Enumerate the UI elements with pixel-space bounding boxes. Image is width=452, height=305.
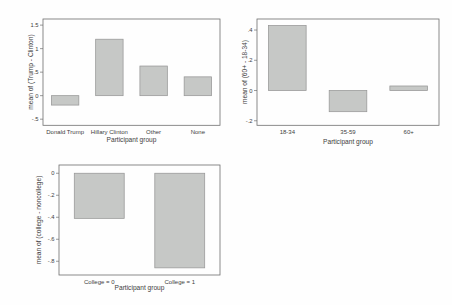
y-tick-label: -.6 xyxy=(48,236,55,242)
y-axis-title: mean of (60+ - 18-34) xyxy=(241,40,249,104)
y-tick-label: 0 xyxy=(51,170,54,176)
bar xyxy=(140,66,167,96)
bar xyxy=(390,86,428,91)
y-tick-label: 1.5 xyxy=(30,22,38,28)
x-category-label: None xyxy=(191,129,206,135)
y-tick-label: -.2 xyxy=(246,118,253,124)
y-tick-label: 0 xyxy=(35,93,38,99)
x-axis-title: Participant group xyxy=(107,136,157,144)
figure-canvas: mean of (Trump - Clinton) Participant gr… xyxy=(0,0,452,305)
x-category-label: Other xyxy=(146,129,161,135)
y-tick-label: -.4 xyxy=(48,214,56,220)
x-category-label: 18-34 xyxy=(280,129,296,135)
y-tick-label: 0 xyxy=(249,88,252,94)
y-axis-title: mean of (college - noncollege) xyxy=(35,176,43,265)
y-tick-label: .4 xyxy=(248,27,254,33)
bar xyxy=(74,173,124,218)
x-category-label: College = 0 xyxy=(84,279,115,285)
age-group-bar-chart: mean of (60+ - 18-34) Participant group … xyxy=(232,0,452,152)
bar xyxy=(329,91,367,112)
bar xyxy=(96,39,123,95)
college-bar-chart: mean of (college - noncollege) Participa… xyxy=(0,152,232,302)
y-tick-label: 1 xyxy=(35,46,38,52)
x-axis-title: Participant group xyxy=(323,138,373,146)
trump-clinton-bar-chart: mean of (Trump - Clinton) Participant gr… xyxy=(0,0,232,152)
y-tick-label: .2 xyxy=(248,57,253,63)
x-category-label: 60+ xyxy=(404,129,415,135)
y-tick-label: -.2 xyxy=(48,192,55,198)
x-category-label: Donald Trump xyxy=(46,129,84,135)
x-category-label: Hillary Clinton xyxy=(91,129,128,135)
x-axis-title: Participant group xyxy=(115,284,165,292)
x-category-label: 35-59 xyxy=(340,129,356,135)
y-tick-label: -.8 xyxy=(48,258,55,264)
x-category-label: College = 1 xyxy=(164,279,195,285)
bar xyxy=(269,26,307,91)
y-tick-label: .5 xyxy=(34,69,39,75)
plot-box xyxy=(43,19,220,125)
bar xyxy=(155,173,205,268)
bar xyxy=(184,77,211,96)
bar xyxy=(51,96,78,105)
y-tick-label: -.5 xyxy=(32,116,39,122)
